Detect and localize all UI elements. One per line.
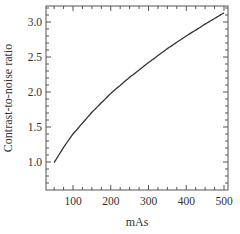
y-axis-tick-labels: 1.01.52.02.53.0: [28, 16, 43, 168]
x-tick-label: 400: [178, 195, 196, 207]
x-tick-label: 100: [64, 195, 82, 207]
cnr-curve: [54, 13, 224, 163]
x-axis-label: mAs: [126, 215, 149, 229]
cnr-line-chart: 100200300400500 1.01.52.02.53.0 mAs Cont…: [0, 0, 240, 234]
y-tick-label: 1.5: [28, 121, 43, 133]
y-tick-label: 2.5: [28, 51, 43, 63]
plot-frame: [46, 6, 228, 190]
y-tick-label: 3.0: [28, 16, 43, 28]
x-tick-label: 500: [215, 195, 233, 207]
y-tick-label: 2.0: [28, 86, 43, 98]
x-tick-label: 200: [102, 195, 120, 207]
x-axis-ticks: [54, 6, 224, 190]
x-tick-label: 300: [140, 195, 158, 207]
x-axis-tick-labels: 100200300400500: [64, 195, 233, 207]
y-tick-label: 1.0: [28, 156, 43, 168]
y-axis-label: Contrast-to-noise ratio: [1, 44, 15, 152]
y-axis-ticks: [46, 8, 228, 183]
